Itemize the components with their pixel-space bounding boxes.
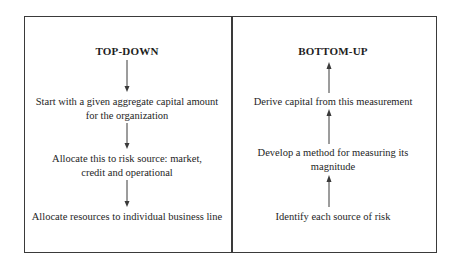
arrow-up-icon: [327, 62, 332, 93]
arrow-down-icon: [125, 123, 130, 149]
arrow-up-icon: [327, 109, 332, 144]
arrow-up-icon: [327, 175, 332, 207]
flow-arrows: [0, 0, 463, 270]
arrow-down-icon: [125, 180, 130, 207]
arrow-down-icon: [125, 60, 130, 92]
